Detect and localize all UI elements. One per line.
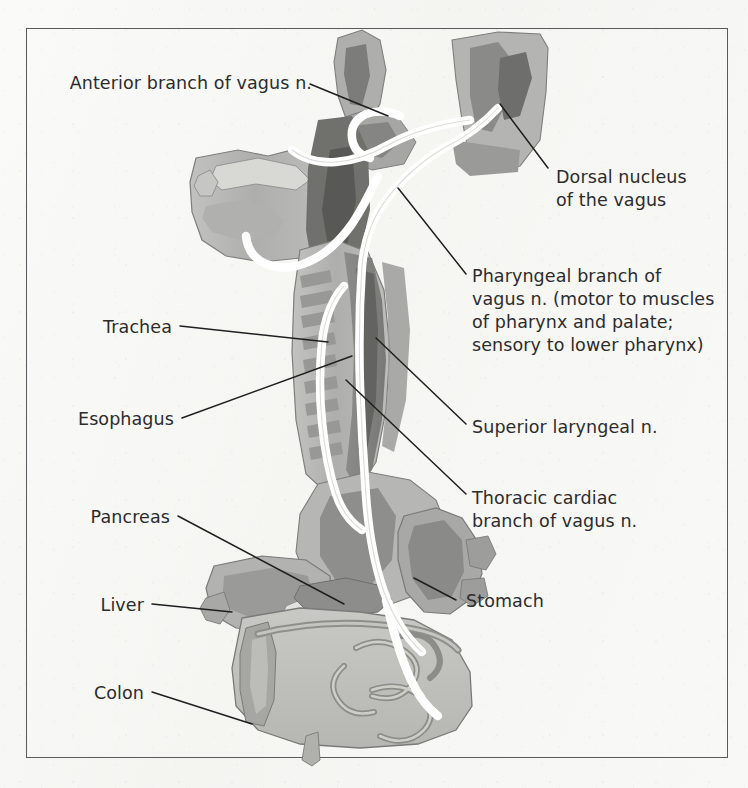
label-esophagus: Esophagus [22,408,174,432]
label-thoracic-cardiac-line1: Thoracic cardiac [472,487,617,511]
label-pharyngeal-branch-line4: sensory to lower pharynx) [472,334,704,358]
label-stomach: Stomach [466,590,544,614]
label-anterior-branch-of-vagus: Anterior branch of vagus n. [56,72,312,96]
label-dorsal-nucleus-line1: Dorsal nucleus [556,166,687,190]
label-trachea: Trachea [22,316,172,340]
label-pharyngeal-branch-line2: vagus n. (motor to muscles [472,288,714,312]
label-colon: Colon [22,682,144,706]
label-pharyngeal-branch-line3: of pharynx and palate; [472,311,674,335]
figure-frame-border [26,28,728,758]
label-pancreas: Pancreas [22,506,170,530]
label-pharyngeal-branch-line1: Pharyngeal branch of [472,265,661,289]
label-superior-laryngeal-n: Superior laryngeal n. [472,416,658,440]
label-liver: Liver [22,594,144,618]
label-dorsal-nucleus-line2: of the vagus [556,189,666,213]
label-thoracic-cardiac-line2: branch of vagus n. [472,510,637,534]
figure-page: Anterior branch of vagus n. Dorsal nucle… [0,0,748,788]
